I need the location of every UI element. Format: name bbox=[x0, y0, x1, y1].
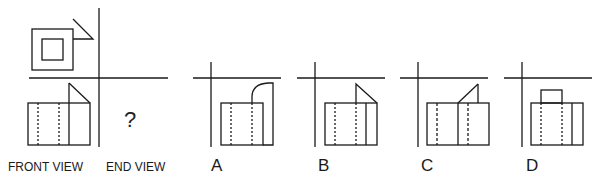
end-view-question-mark: ? bbox=[124, 107, 136, 133]
option-a-drawing[interactable] bbox=[193, 62, 281, 147]
option-c-label[interactable]: C bbox=[421, 156, 433, 176]
option-d-label[interactable]: D bbox=[526, 156, 538, 176]
option-a-label[interactable]: A bbox=[211, 156, 222, 176]
orthographic-diagram bbox=[0, 0, 603, 182]
front-view-label: FRONT VIEW bbox=[8, 160, 83, 174]
option-d-drawing[interactable] bbox=[504, 62, 592, 147]
end-view-label: END VIEW bbox=[106, 160, 165, 174]
option-c-drawing[interactable] bbox=[400, 62, 489, 147]
front-view-drawing bbox=[28, 83, 90, 145]
top-view bbox=[32, 19, 93, 70]
option-b-drawing[interactable] bbox=[297, 62, 385, 147]
option-b-label[interactable]: B bbox=[318, 156, 329, 176]
